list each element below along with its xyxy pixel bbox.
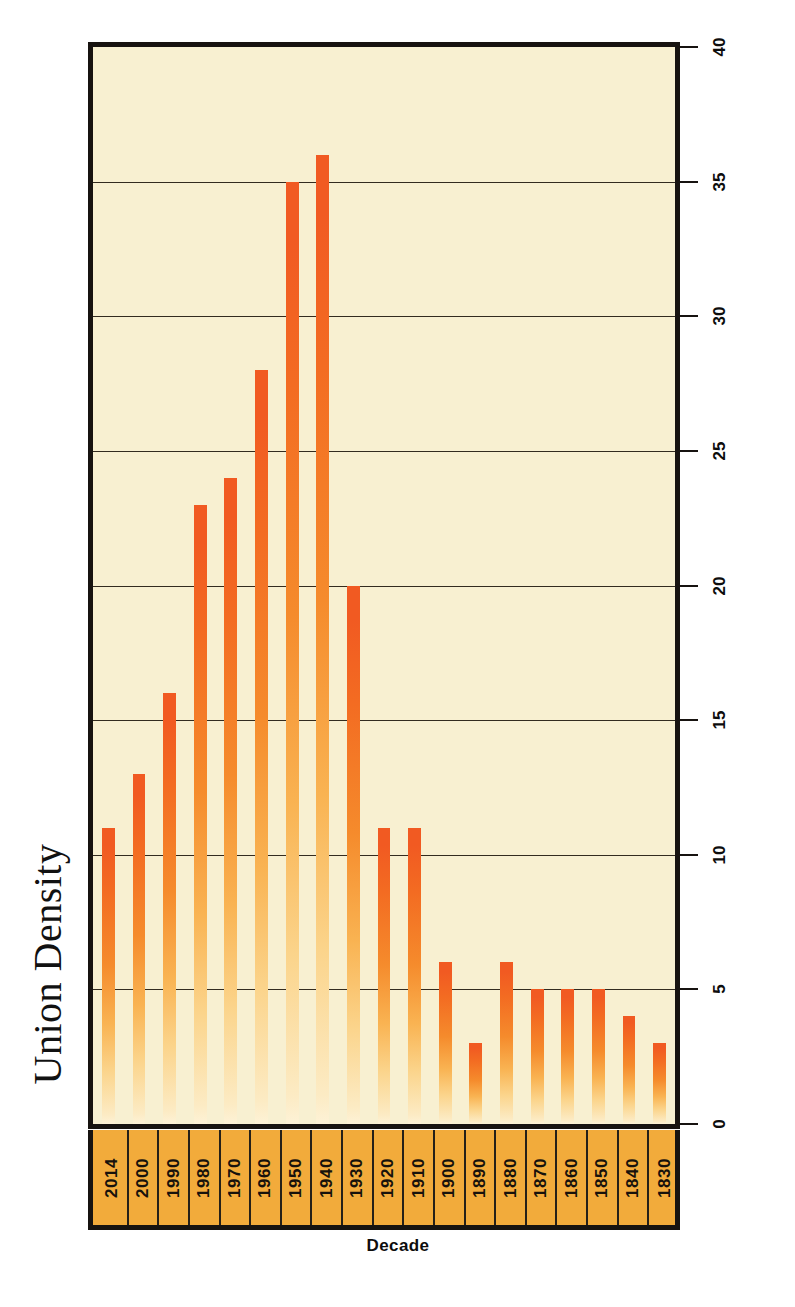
- bar-1830[interactable]: [653, 1043, 666, 1124]
- value-tick-label: 25: [700, 439, 740, 463]
- category-cell-1970[interactable]: 1970: [221, 1130, 252, 1225]
- value-tick-label: 0: [700, 1112, 740, 1136]
- category-cell-1850[interactable]: 1850: [588, 1130, 619, 1225]
- bar-1990[interactable]: [163, 693, 176, 1124]
- category-label: 1960: [255, 1158, 275, 1198]
- category-cell-1990[interactable]: 1990: [159, 1130, 190, 1225]
- bar-1890[interactable]: [469, 1043, 482, 1124]
- bar-series: [93, 47, 675, 1124]
- value-tick-label: 35: [700, 170, 740, 194]
- bar-2000[interactable]: [133, 774, 146, 1124]
- category-cell-1960[interactable]: 1960: [251, 1130, 282, 1225]
- value-tick-mark: [680, 450, 698, 452]
- category-label: 1860: [562, 1158, 582, 1198]
- category-label: 1880: [501, 1158, 521, 1198]
- category-cell-1950[interactable]: 1950: [282, 1130, 313, 1225]
- category-label: 2014: [102, 1158, 122, 1198]
- category-label: 1920: [378, 1158, 398, 1198]
- category-cell-1880[interactable]: 1880: [496, 1130, 527, 1225]
- bar-1950[interactable]: [286, 182, 299, 1124]
- plot-inner: [93, 47, 675, 1124]
- category-cell-1870[interactable]: 1870: [527, 1130, 558, 1225]
- category-cell-1930[interactable]: 1930: [343, 1130, 374, 1225]
- bar-1980[interactable]: [194, 505, 207, 1124]
- plot-area: [88, 42, 680, 1129]
- category-axis: 2014200019901980197019601950194019301920…: [88, 1130, 680, 1230]
- bar-1880[interactable]: [500, 962, 513, 1124]
- value-tick-label: 40: [700, 35, 740, 59]
- category-cell-2014[interactable]: 2014: [98, 1130, 129, 1225]
- value-tick-mark: [680, 719, 698, 721]
- category-label: 1850: [592, 1158, 612, 1198]
- value-tick-label: 30: [700, 304, 740, 328]
- value-tick-mark: [680, 315, 698, 317]
- value-axis: 0510152025303540: [680, 42, 740, 1129]
- value-tick-mark: [680, 988, 698, 990]
- category-label: 1900: [439, 1158, 459, 1198]
- bar-1960[interactable]: [255, 370, 268, 1124]
- bar-1910[interactable]: [408, 828, 421, 1124]
- category-label: 1950: [286, 1158, 306, 1198]
- bar-1920[interactable]: [378, 828, 391, 1124]
- bar-1930[interactable]: [347, 586, 360, 1125]
- category-label: 1910: [409, 1158, 429, 1198]
- category-cell-1900[interactable]: 1900: [435, 1130, 466, 1225]
- value-tick-label: 15: [700, 708, 740, 732]
- category-axis-title: Decade: [88, 1236, 708, 1256]
- category-label: 1980: [194, 1158, 214, 1198]
- category-cell-1910[interactable]: 1910: [404, 1130, 435, 1225]
- bar-1860[interactable]: [561, 989, 574, 1124]
- category-cell-2000[interactable]: 2000: [129, 1130, 160, 1225]
- category-cell-1920[interactable]: 1920: [374, 1130, 405, 1225]
- bar-1900[interactable]: [439, 962, 452, 1124]
- category-cell-1830[interactable]: 1830: [649, 1130, 680, 1225]
- category-label: 1990: [164, 1158, 184, 1198]
- category-label: 2000: [133, 1158, 153, 1198]
- value-tick-mark: [680, 181, 698, 183]
- value-tick-mark: [680, 46, 698, 48]
- value-tick-mark: [680, 1123, 698, 1125]
- category-cell-1890[interactable]: 1890: [466, 1130, 497, 1225]
- category-label: 1970: [225, 1158, 245, 1198]
- category-cell-1940[interactable]: 1940: [312, 1130, 343, 1225]
- bar-1940[interactable]: [316, 155, 329, 1124]
- category-label: 1870: [531, 1158, 551, 1198]
- category-label: 1840: [623, 1158, 643, 1198]
- category-cell-1840[interactable]: 1840: [619, 1130, 650, 1225]
- value-tick-label: 10: [700, 843, 740, 867]
- bar-1970[interactable]: [224, 478, 237, 1124]
- chart-figure: Union Density 20142000199019801970196019…: [0, 0, 795, 1307]
- category-cell-1860[interactable]: 1860: [557, 1130, 588, 1225]
- value-tick-label: 5: [700, 977, 740, 1001]
- value-tick-label: 20: [700, 574, 740, 598]
- page-title: Union Density: [24, 824, 72, 1104]
- bar-1840[interactable]: [623, 1016, 636, 1124]
- value-tick-mark: [680, 585, 698, 587]
- category-label: 1930: [347, 1158, 367, 1198]
- category-label: 1890: [470, 1158, 490, 1198]
- value-tick-mark: [680, 854, 698, 856]
- category-cell-1980[interactable]: 1980: [190, 1130, 221, 1225]
- category-label: 1830: [655, 1158, 675, 1198]
- category-label: 1940: [317, 1158, 337, 1198]
- bar-1850[interactable]: [592, 989, 605, 1124]
- bar-2014[interactable]: [102, 828, 115, 1124]
- bar-1870[interactable]: [531, 989, 544, 1124]
